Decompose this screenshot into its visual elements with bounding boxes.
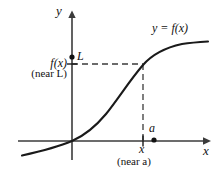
x-axis-label: x: [203, 144, 209, 157]
y-axis: [68, 11, 75, 161]
x-tick-label: x: [139, 143, 144, 155]
curve-equation-label: y = f(x): [152, 22, 188, 34]
near-point-label: (near a): [117, 156, 151, 167]
point-a-label: a: [149, 122, 155, 134]
y-axis-label: y: [56, 4, 62, 17]
limit-definition-figure: y x y = f(x) L f(x) (near L) a x (near a…: [0, 0, 221, 184]
limit-value-label: L: [77, 50, 84, 62]
x-axis: [18, 137, 211, 145]
limit-value-dot: [69, 54, 74, 59]
y-axis-arrowhead: [68, 11, 75, 19]
point-a-dot: [151, 137, 156, 142]
near-limit-label: (near L): [6, 68, 67, 79]
